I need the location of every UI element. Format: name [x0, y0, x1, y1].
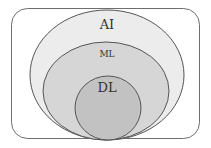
dl-label: DL	[97, 80, 116, 95]
venn-diagram: AI ML DL	[0, 0, 211, 148]
ml-label: ML	[99, 49, 114, 59]
ai-label: AI	[99, 17, 115, 32]
